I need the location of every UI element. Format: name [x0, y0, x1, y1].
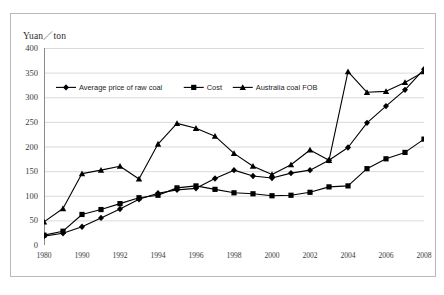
data-point-marker [345, 68, 351, 74]
y-tick-label: 250 [14, 117, 38, 127]
data-point-marker [155, 193, 160, 198]
data-point-marker [117, 201, 122, 206]
data-point-marker [117, 163, 123, 169]
data-point-marker [191, 85, 196, 90]
data-point-marker [79, 224, 85, 230]
data-point-marker [345, 183, 350, 188]
x-tick-label: 2008 [409, 251, 439, 260]
plot-area: Average price of raw coalCostAustralia c… [44, 48, 424, 245]
x-tick-label: 1996 [181, 251, 211, 260]
x-tick-label: 1998 [219, 251, 249, 260]
legend-label: Australia coal FOB [256, 83, 318, 92]
data-point-marker [250, 173, 256, 179]
data-point-marker [193, 183, 198, 188]
data-point-marker [60, 229, 65, 234]
data-point-marker [212, 133, 218, 139]
data-point-marker [307, 147, 313, 153]
y-tick-label: 400 [14, 43, 38, 53]
chart-legend: Average price of raw coalCostAustralia c… [56, 83, 317, 92]
y-tick-label: 100 [14, 191, 38, 201]
y-tick-label: 0 [14, 240, 38, 250]
data-point-marker [383, 156, 388, 161]
x-tick-label: 1994 [143, 251, 173, 260]
data-point-marker [250, 191, 255, 196]
y-tick-label: 150 [14, 166, 38, 176]
data-point-marker [136, 176, 142, 182]
data-point-marker [63, 84, 69, 90]
data-point-marker [136, 195, 141, 200]
data-point-marker [288, 193, 293, 198]
y-tick-label: 300 [14, 92, 38, 102]
data-point-marker [212, 175, 218, 181]
x-tick-label: 2000 [257, 251, 287, 260]
x-tick-label: 2002 [295, 251, 325, 260]
data-point-marker [79, 212, 84, 217]
data-point-marker [174, 185, 179, 190]
data-point-marker [421, 137, 424, 142]
data-point-marker [117, 206, 123, 212]
y-tick-label: 50 [14, 215, 38, 225]
data-point-marker [231, 167, 237, 173]
data-point-marker [307, 167, 313, 173]
data-point-marker [326, 184, 331, 189]
data-point-marker [250, 163, 256, 169]
data-point-marker [288, 170, 294, 176]
legend-label: Average price of raw coal [79, 83, 163, 92]
legend-label: Cost [207, 83, 222, 92]
data-point-marker [402, 79, 408, 85]
plot-svg: Average price of raw coalCostAustralia c… [44, 48, 424, 245]
data-point-marker [174, 120, 180, 126]
data-point-marker [212, 187, 217, 192]
data-point-marker [98, 215, 104, 221]
data-point-marker [98, 207, 103, 212]
y-tick-label: 200 [14, 142, 38, 152]
data-point-marker [60, 205, 66, 211]
x-tick-label: 2004 [333, 251, 363, 260]
x-tick-label: 2006 [371, 251, 401, 260]
chart-figure: Yuan／ton Average price of raw coalCostAu… [0, 0, 444, 295]
x-tick-label: 1980 [29, 251, 59, 260]
x-tick-label: 1990 [67, 251, 97, 260]
data-point-marker [269, 193, 274, 198]
data-point-marker [269, 171, 275, 177]
y-axis-unit-label: Yuan／ton [23, 28, 66, 42]
y-tick-label: 350 [14, 68, 38, 78]
data-point-marker [231, 190, 236, 195]
data-point-marker [44, 233, 47, 238]
data-point-marker [364, 166, 369, 171]
x-tick-label: 1992 [105, 251, 135, 260]
data-point-marker [402, 150, 407, 155]
data-point-marker [307, 190, 312, 195]
